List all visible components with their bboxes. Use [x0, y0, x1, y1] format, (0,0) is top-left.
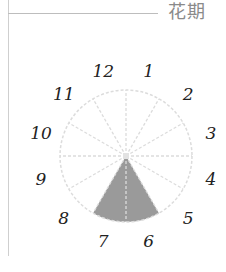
radial-gridline [126, 99, 159, 156]
radial-gridline [93, 99, 126, 156]
center-dot [123, 153, 129, 159]
radial-gridline [69, 123, 126, 156]
month-label-10: 10 [30, 123, 52, 143]
clock-grid [60, 90, 192, 222]
month-sector-6 [126, 156, 159, 222]
month-label-4: 4 [205, 169, 217, 189]
month-label-2: 2 [182, 84, 194, 104]
month-label-1: 1 [143, 61, 154, 81]
month-label-9: 9 [36, 169, 47, 189]
month-label-12: 12 [92, 61, 114, 81]
month-label-8: 8 [58, 208, 69, 228]
month-sector-7 [93, 156, 126, 222]
month-label-7: 7 [98, 231, 109, 251]
radial-gridline [126, 123, 183, 156]
flowering-clock-chart: 123456789101112 [0, 0, 226, 272]
month-label-11: 11 [53, 84, 75, 104]
month-label-6: 6 [143, 231, 154, 251]
month-label-3: 3 [206, 123, 217, 143]
month-label-5: 5 [183, 208, 194, 228]
